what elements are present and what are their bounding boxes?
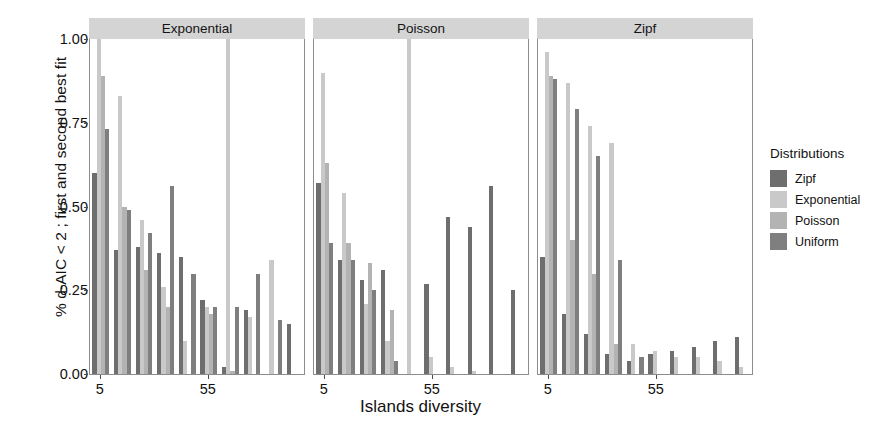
y-axis-tick-label: 0.75 bbox=[30, 115, 88, 131]
bar bbox=[183, 341, 187, 375]
plot-area bbox=[89, 39, 305, 375]
x-axis-tick-label: 5 bbox=[544, 381, 552, 397]
bar bbox=[450, 367, 454, 374]
legend-swatch-icon bbox=[770, 191, 787, 208]
bar-group-container bbox=[538, 39, 752, 374]
bar bbox=[575, 109, 579, 374]
legend-item-label: Uniform bbox=[795, 235, 839, 249]
y-axis-tick-mark bbox=[84, 39, 88, 40]
bar bbox=[235, 307, 239, 374]
legend-item-label: Poisson bbox=[795, 214, 839, 228]
bar bbox=[446, 217, 450, 374]
legend-item-uniform[interactable]: Uniform bbox=[770, 231, 860, 252]
bar bbox=[248, 317, 252, 374]
bar bbox=[553, 79, 557, 374]
x-axis-tick-label: 55 bbox=[424, 381, 440, 397]
bar bbox=[287, 324, 291, 374]
y-axis-tick-label: 0.25 bbox=[30, 282, 88, 298]
bar bbox=[696, 357, 700, 374]
bar bbox=[468, 227, 472, 374]
x-axis-tick-mark bbox=[208, 375, 209, 379]
legend-item-label: Zipf bbox=[795, 172, 816, 186]
x-axis-tick-label: 5 bbox=[96, 381, 104, 397]
x-axis-tick-label: 55 bbox=[648, 381, 664, 397]
bar bbox=[631, 344, 635, 374]
y-axis-tick-label: 0.50 bbox=[30, 199, 88, 215]
bar bbox=[269, 260, 273, 374]
bar bbox=[489, 186, 493, 374]
bar bbox=[511, 290, 515, 374]
legend-item-label: Exponential bbox=[795, 193, 860, 207]
bar bbox=[653, 351, 657, 374]
bar bbox=[472, 371, 476, 374]
bar bbox=[148, 233, 152, 374]
bar bbox=[739, 367, 743, 374]
y-axis-tick-label: 1.00 bbox=[30, 31, 88, 47]
bar-group-container bbox=[90, 39, 304, 374]
legend-swatch-icon bbox=[770, 233, 787, 250]
bar bbox=[351, 260, 355, 374]
bar bbox=[372, 290, 376, 374]
bar bbox=[191, 274, 195, 375]
bar bbox=[639, 357, 643, 374]
bar bbox=[717, 361, 721, 374]
plot-area bbox=[313, 39, 529, 375]
facet-strip-label: Exponential bbox=[89, 18, 305, 39]
bar bbox=[329, 243, 333, 374]
y-axis-tick-mark bbox=[84, 290, 88, 291]
y-axis-tick-mark bbox=[84, 123, 88, 124]
bar bbox=[609, 143, 613, 374]
y-axis: 0.000.250.500.751.00 bbox=[10, 0, 88, 429]
y-axis-tick-mark bbox=[84, 207, 88, 208]
x-axis-tick-mark bbox=[548, 375, 549, 379]
bar-group-container bbox=[314, 39, 528, 374]
bar bbox=[596, 156, 600, 374]
y-axis-tick-mark bbox=[84, 374, 88, 375]
legend: Distributions ZipfExponentialPoissonUnif… bbox=[770, 146, 860, 252]
bar bbox=[674, 357, 678, 374]
bar bbox=[618, 260, 622, 374]
bar bbox=[226, 39, 230, 374]
bar bbox=[256, 274, 260, 375]
x-axis-tick-mark bbox=[656, 375, 657, 379]
x-axis-tick-mark bbox=[100, 375, 101, 379]
facet-strip-label: Zipf bbox=[537, 18, 753, 39]
bar bbox=[170, 186, 174, 374]
bar bbox=[105, 129, 109, 374]
legend-swatch-icon bbox=[770, 212, 787, 229]
bar bbox=[407, 39, 411, 374]
bar bbox=[127, 210, 131, 374]
legend-title: Distributions bbox=[770, 146, 860, 161]
chart-figure: % d-AIC < 2 ; first and second best fit … bbox=[0, 0, 884, 429]
plot-area bbox=[537, 39, 753, 375]
legend-item-exponential[interactable]: Exponential bbox=[770, 189, 860, 210]
legend-items: ZipfExponentialPoissonUniform bbox=[770, 168, 860, 252]
x-axis-title: Islands diversity bbox=[89, 397, 752, 417]
bar bbox=[213, 307, 217, 374]
bar bbox=[278, 320, 282, 374]
y-axis-tick-label: 0.00 bbox=[30, 366, 88, 382]
x-axis-tick-label: 55 bbox=[200, 381, 216, 397]
x-axis-tick-label: 5 bbox=[320, 381, 328, 397]
legend-item-zipf[interactable]: Zipf bbox=[770, 168, 860, 189]
legend-swatch-icon bbox=[770, 170, 787, 187]
bar bbox=[394, 361, 398, 374]
x-axis-tick-mark bbox=[432, 375, 433, 379]
bar bbox=[429, 357, 433, 374]
x-axis-tick-mark bbox=[324, 375, 325, 379]
facet-strip-label: Poisson bbox=[313, 18, 529, 39]
legend-item-poisson[interactable]: Poisson bbox=[770, 210, 860, 231]
